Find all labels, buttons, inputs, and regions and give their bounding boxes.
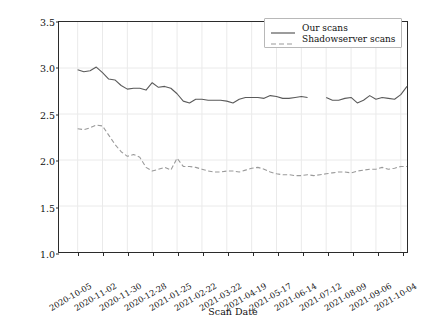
x-axis-tick-mark bbox=[128, 252, 129, 256]
x-axis-tick-mark bbox=[253, 252, 254, 256]
legend-item-label: Shadowserver scans bbox=[302, 34, 395, 44]
x-axis-tick-mark bbox=[153, 252, 154, 256]
y-axis-tick-mark bbox=[56, 68, 60, 69]
y-axis-tick-mark bbox=[56, 22, 60, 23]
legend-line-swatch bbox=[270, 23, 296, 33]
x-axis-tick-mark bbox=[353, 252, 354, 256]
y-axis-tick-label: 2.0 bbox=[40, 156, 55, 167]
x-axis-tick-mark bbox=[328, 252, 329, 256]
y-axis-tick-mark bbox=[56, 161, 60, 162]
x-axis-tick-mark bbox=[403, 252, 404, 256]
y-axis-tick-label: 2.5 bbox=[40, 109, 55, 120]
legend-line-swatch bbox=[270, 34, 296, 44]
chart-figure: 1.01.52.02.53.03.52020-10-052020-11-0220… bbox=[0, 0, 423, 327]
y-axis-tick-mark bbox=[56, 207, 60, 208]
x-axis-title: Scan Date bbox=[58, 306, 408, 317]
series-line-1 bbox=[326, 86, 407, 103]
x-axis-tick-mark bbox=[278, 252, 279, 256]
legend-item: Our scans bbox=[270, 22, 395, 33]
x-axis-tick-mark bbox=[178, 252, 179, 256]
x-axis-tick-mark bbox=[78, 252, 79, 256]
chart-canvas bbox=[59, 22, 407, 252]
x-axis-tick-mark bbox=[103, 252, 104, 256]
y-axis-tick-mark bbox=[56, 114, 60, 115]
legend-item-label: Our scans bbox=[302, 23, 348, 33]
y-axis-tick-mark bbox=[56, 254, 60, 255]
y-axis-tick-label: 1.5 bbox=[40, 202, 55, 213]
plot-area: 1.01.52.02.53.03.52020-10-052020-11-0220… bbox=[58, 21, 408, 253]
x-axis-tick-mark bbox=[303, 252, 304, 256]
series-line-1 bbox=[78, 67, 308, 103]
x-axis-tick-mark bbox=[228, 252, 229, 256]
y-axis-tick-label: 1.0 bbox=[40, 249, 55, 260]
chart-legend: Our scansShadowserver scans bbox=[264, 18, 402, 48]
y-axis-tick-label: 3.0 bbox=[40, 63, 55, 74]
x-axis-tick-mark bbox=[378, 252, 379, 256]
x-axis-tick-mark bbox=[203, 252, 204, 256]
legend-item: Shadowserver scans bbox=[270, 33, 395, 44]
y-axis-tick-label: 3.5 bbox=[40, 17, 55, 28]
